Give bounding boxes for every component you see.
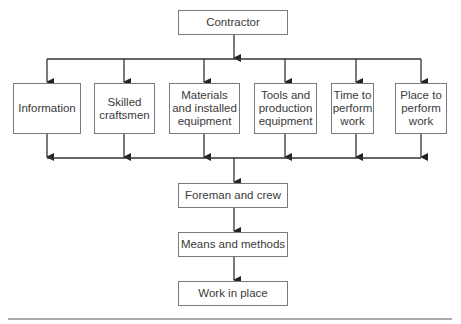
tools-box: Tools and production equipment	[254, 83, 317, 134]
contractor-label: Contractor	[206, 16, 260, 29]
information-box: Information	[13, 83, 81, 134]
work-in-place-label: Work in place	[198, 287, 267, 300]
means-label: Means and methods	[181, 238, 285, 251]
time-box: Time to perform work	[331, 83, 374, 134]
contractor-box: Contractor	[178, 10, 288, 35]
place-box: Place to perform work	[395, 83, 447, 134]
connector-lines	[0, 0, 461, 324]
materials-label: Materials and installed equipment	[170, 89, 239, 128]
work-in-place-box: Work in place	[178, 281, 288, 306]
time-label: Time to perform work	[332, 89, 373, 128]
materials-box: Materials and installed equipment	[169, 83, 240, 134]
means-box: Means and methods	[178, 232, 288, 257]
skilled-craftsmen-label: Skilled craftsmen	[95, 96, 154, 122]
foreman-label: Foreman and crew	[185, 189, 281, 202]
place-label: Place to perform work	[396, 89, 446, 128]
skilled-craftsmen-box: Skilled craftsmen	[94, 83, 155, 134]
foreman-box: Foreman and crew	[178, 183, 288, 208]
tools-label: Tools and production equipment	[255, 89, 316, 128]
information-label: Information	[18, 102, 76, 115]
